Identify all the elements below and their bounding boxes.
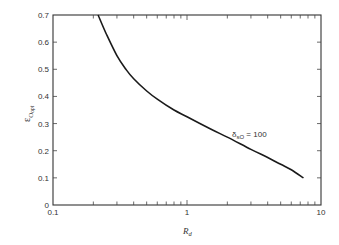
y-tick-label: 0: [45, 201, 50, 210]
x-axis-label: Rd: [182, 226, 193, 237]
x-tick-label: 0.1: [47, 208, 59, 217]
y-tick-label: 0.5: [38, 65, 50, 74]
y-tick-label: 0.6: [38, 38, 50, 47]
x-tick-label: 10: [317, 208, 326, 217]
y-axis-label: εOopt: [21, 105, 35, 122]
y-tick-label: 0.3: [38, 120, 50, 129]
y-tick-label: 0.2: [38, 147, 50, 156]
y-tick-label: 0.1: [38, 174, 50, 183]
series-annotation: δsO = 100: [232, 130, 267, 140]
chart: 0.1110 00.10.20.30.40.50.60.7 Rd εOopt δ…: [0, 0, 339, 245]
axis-ticks: [53, 15, 321, 205]
x-tick-label: 1: [185, 208, 190, 217]
y-tick-label: 0.4: [38, 92, 50, 101]
x-tick-labels: 0.1110: [47, 208, 326, 217]
plot-frame: [53, 15, 321, 205]
y-tick-label: 0.7: [38, 11, 50, 20]
y-tick-labels: 00.10.20.30.40.50.60.7: [38, 11, 50, 210]
series-line: [98, 15, 303, 178]
